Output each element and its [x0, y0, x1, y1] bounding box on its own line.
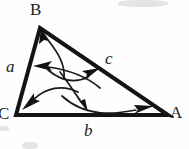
vertex-label-c: C: [0, 105, 9, 122]
arrow-along-side-b: [62, 96, 154, 114]
side-label-c: c: [105, 50, 113, 67]
vertex-label-b: B: [30, 1, 41, 18]
scan-smudge-left: [0, 126, 9, 131]
vertex-label-a: A: [170, 104, 182, 121]
triangle-diagram-svg: [0, 0, 189, 149]
side-label-a: a: [6, 58, 15, 75]
side-label-b: b: [84, 122, 93, 139]
scan-smudge-bottom: [22, 142, 38, 149]
diagram-canvas: B C A a b c: [0, 0, 189, 149]
arrow-to-side-c: [48, 68, 100, 81]
scan-smudge-top: [118, 0, 168, 7]
arrow-to-vertex-c: [22, 88, 78, 110]
